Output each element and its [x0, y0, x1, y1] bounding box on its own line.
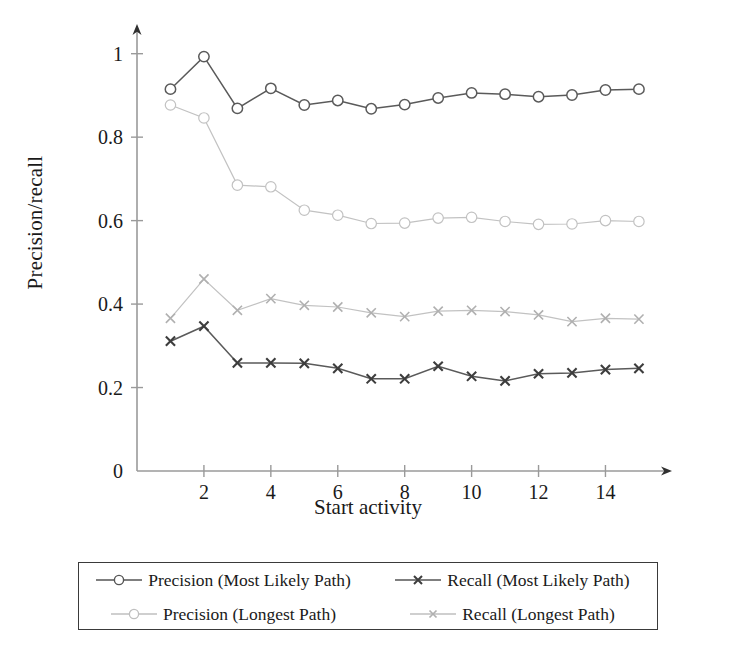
data-point-cross: [434, 362, 443, 371]
data-point-circle: [266, 83, 276, 93]
legend-item-recall-longest-path: Recall (Longest Path): [368, 597, 657, 631]
series-recall-most-likely-path: [166, 322, 644, 386]
series-line: [171, 105, 639, 224]
series-precision-most-likely-path: [165, 51, 644, 114]
data-point-circle: [165, 84, 175, 94]
x-axis-title: Start activity: [0, 495, 736, 520]
data-point-cross: [166, 337, 175, 346]
data-point-circle: [299, 205, 309, 215]
data-series: [165, 51, 644, 385]
legend-item-recall-most-likely-path: Recall (Most Likely Path): [368, 563, 657, 597]
data-point-circle: [232, 103, 242, 113]
data-point-circle: [533, 219, 543, 229]
y-tick-label: 0.4: [98, 293, 123, 315]
series-line: [171, 326, 639, 381]
y-tick-label: 1: [113, 43, 123, 65]
legend-row-1: Precision (Most Likely Path) Recall (Mos…: [79, 563, 657, 597]
data-point-circle: [634, 84, 644, 94]
data-point-circle: [600, 215, 610, 225]
line-chart-svg: 00.20.40.60.812468101214: [0, 0, 736, 545]
axes: 00.20.40.60.812468101214: [98, 24, 672, 503]
y-tick-label: 0: [113, 460, 123, 482]
data-point-circle: [199, 51, 209, 61]
data-point-circle: [333, 95, 343, 105]
data-point-cross: [199, 274, 208, 283]
figure: 00.20.40.60.812468101214 Precision/recal…: [0, 0, 736, 667]
legend-marker-circle-dark: [96, 573, 142, 587]
data-point-circle: [466, 212, 476, 222]
legend-marker-cross-light: [410, 607, 456, 621]
y-tick-label: 0.6: [98, 210, 123, 232]
data-point-cross: [166, 314, 175, 323]
data-point-circle: [567, 90, 577, 100]
data-point-circle: [433, 93, 443, 103]
data-point-circle: [466, 88, 476, 98]
y-tick-label: 0.8: [98, 126, 123, 148]
data-point-circle: [399, 99, 409, 109]
data-point-circle: [500, 89, 510, 99]
legend-marker-cross-dark: [395, 573, 441, 587]
data-point-cross: [199, 322, 208, 331]
legend-label: Recall (Most Likely Path): [447, 570, 629, 591]
legend-label: Recall (Longest Path): [462, 604, 615, 625]
data-point-circle: [433, 213, 443, 223]
data-point-circle: [500, 216, 510, 226]
data-point-circle: [199, 113, 209, 123]
data-point-circle: [399, 218, 409, 228]
data-point-circle: [366, 104, 376, 114]
legend: Precision (Most Likely Path) Recall (Mos…: [78, 562, 658, 630]
legend-item-precision-longest-path: Precision (Longest Path): [79, 597, 368, 631]
data-point-cross: [233, 306, 242, 315]
y-axis-title: Precision/recall: [23, 93, 48, 353]
data-point-circle: [600, 85, 610, 95]
data-point-circle: [266, 182, 276, 192]
series-recall-longest-path: [166, 274, 644, 326]
data-point-circle: [299, 100, 309, 110]
series-line: [171, 279, 639, 322]
data-point-circle: [366, 218, 376, 228]
legend-label: Precision (Most Likely Path): [148, 570, 351, 591]
y-tick-label: 0.2: [98, 377, 123, 399]
data-point-circle: [567, 219, 577, 229]
data-point-circle: [533, 91, 543, 101]
series-precision-longest-path: [165, 100, 644, 230]
plot-area: 00.20.40.60.812468101214 Precision/recal…: [0, 0, 736, 545]
legend-label: Precision (Longest Path): [163, 604, 336, 625]
data-point-circle: [165, 100, 175, 110]
data-point-circle: [634, 216, 644, 226]
legend-marker-circle-light: [111, 607, 157, 621]
legend-row-2: Precision (Longest Path) Recall (Longest…: [79, 597, 657, 631]
data-point-circle: [333, 210, 343, 220]
data-point-cross: [266, 294, 275, 303]
data-point-circle: [232, 180, 242, 190]
legend-item-precision-most-likely-path: Precision (Most Likely Path): [79, 563, 368, 597]
